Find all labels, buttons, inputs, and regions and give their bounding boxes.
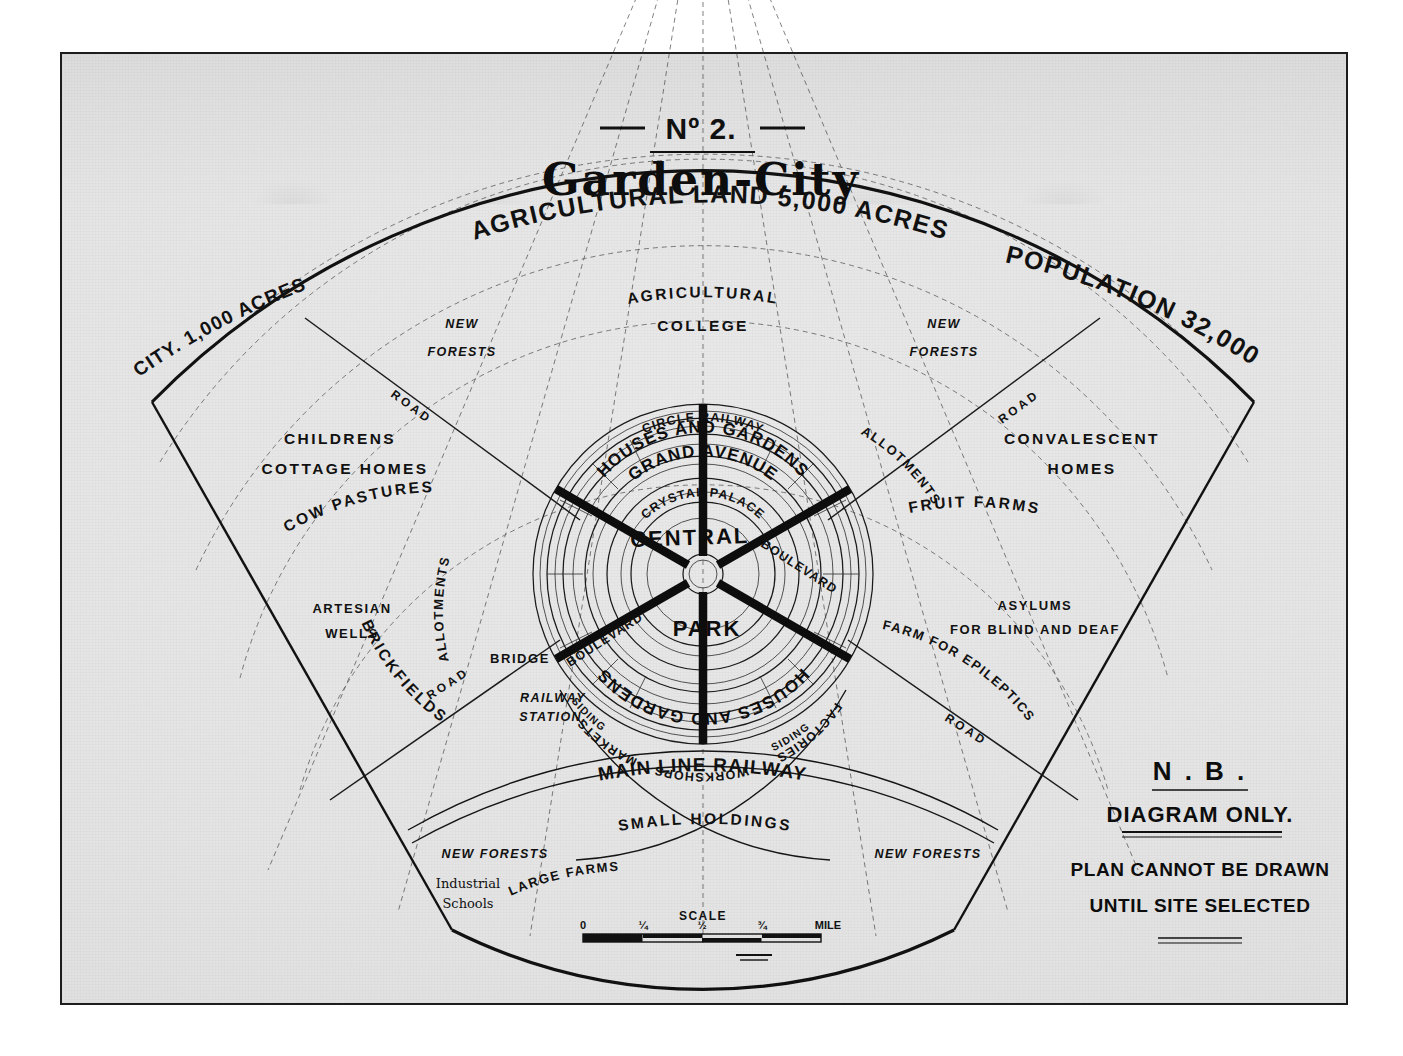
new-forests-br: NEW FORESTS — [874, 847, 981, 861]
new-forests-right-1: NEW — [927, 317, 960, 331]
bridge-label: BRIDGE — [490, 651, 550, 666]
scale-tick-half: ½ — [697, 919, 706, 931]
cow-pastures-label: COW PASTURES — [280, 478, 434, 535]
note-line-3: UNTIL SITE SELECTED — [1089, 895, 1310, 916]
diagram-canvas: Nº 2. Garden-City CITY. 1,000 ACRES AGRI… — [0, 0, 1403, 1056]
title-number: Nº 2. — [666, 112, 737, 145]
scale-tick-quarter: ¼ — [638, 919, 648, 931]
new-forests-bl: NEW FORESTS — [441, 847, 548, 861]
scale-bar: SCALE 0 ¼ ½ ¾ MILE — [580, 909, 841, 960]
arc-pop-label: POPULATION 32,000 — [1003, 240, 1265, 371]
arc-population: POPULATION 32,000 — [1003, 240, 1265, 371]
note-heading: N . B . — [1153, 756, 1248, 786]
garden-city-diagram: Nº 2. Garden-City CITY. 1,000 ACRES AGRI… — [0, 0, 1403, 1056]
childrens-label: CHILDRENS — [284, 430, 396, 447]
boulevard-ne-label: BOULEVARD — [758, 537, 840, 597]
railway-station-2: STATION. — [519, 710, 587, 724]
convalescent-label: CONVALESCENT — [1004, 430, 1160, 447]
scale-tick-0: 0 — [580, 919, 586, 931]
arc-city-acres: CITY. 1,000 ACRES — [129, 273, 309, 380]
new-forests-left-2: FORESTS — [428, 345, 497, 359]
new-forests-left-1: NEW — [445, 317, 478, 331]
road-sw-label: ROAD — [424, 665, 471, 703]
arc-city-label: CITY. 1,000 ACRES — [129, 273, 309, 380]
factories-label: FACTORIES — [774, 700, 845, 765]
agricultural-college-2: COLLEGE — [657, 317, 749, 334]
scale-tick-threequarter: ¾ — [757, 919, 767, 931]
road-ne-label: ROAD — [996, 387, 1043, 426]
allotments-right-label: ALLOTMENTS — [859, 423, 945, 508]
asylums-label-2: FOR BLIND AND DEAF — [950, 622, 1120, 637]
new-forests-right-2: FORESTS — [910, 345, 979, 359]
artesian-label: ARTESIAN — [312, 601, 391, 616]
allotments-left-label: ALLOTMENTS — [431, 554, 453, 663]
screenshot-root: Nº 2. Garden-City CITY. 1,000 ACRES AGRI… — [0, 0, 1403, 1056]
scale-unit: MILE — [815, 919, 841, 931]
note-line-2: PLAN CANNOT BE DRAWN — [1071, 859, 1330, 880]
asylums-label: ASYLUMS — [998, 598, 1073, 613]
industrial-schools-2: Schools — [442, 896, 493, 911]
small-holdings-label: SMALL HOLDINGS — [617, 810, 793, 834]
park-label: PARK — [673, 616, 742, 641]
note-block: N . B . DIAGRAM ONLY. PLAN CANNOT BE DRA… — [1071, 756, 1330, 943]
note-line-1: DIAGRAM ONLY. — [1107, 802, 1294, 827]
road-se-label: ROAD — [942, 711, 989, 749]
road-labels: ROAD ROAD ROAD ROAD BRIDGE RAILWAY STATI… — [388, 387, 1042, 753]
homes-label: HOMES — [1048, 460, 1117, 477]
industrial-schools-1: Industrial — [436, 876, 500, 891]
cottage-homes-label: COTTAGE HOMES — [262, 460, 429, 477]
large-farms-label: LARGE FARMS — [506, 859, 620, 899]
central-label: CENTRAL — [630, 523, 750, 552]
